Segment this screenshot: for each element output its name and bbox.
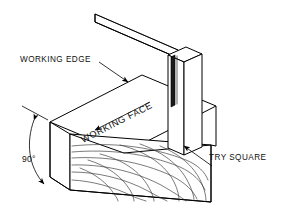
try-square-blade-bottom-edge [95, 22, 178, 58]
label-working-edge: WORKING EDGE [20, 55, 91, 64]
timber-right-end-edge [211, 106, 216, 146]
try-square-stock-front-face [168, 55, 184, 155]
label-try-square: TRY SQUARE [209, 153, 267, 162]
angle-ref-line-upper [22, 106, 48, 120]
try-square-stock-side-face [184, 54, 202, 155]
try-square-stock [168, 47, 202, 155]
try-square-blade-slot [171, 55, 175, 107]
diagram-canvas: WORKING EDGE TRY SQUARE 90° WORKING FACE [0, 0, 284, 221]
angle-arc-90-degrees [22, 106, 48, 184]
leader-line-working-edge [99, 62, 128, 82]
timber-left-end-face [50, 122, 70, 190]
try-square-blade [95, 14, 178, 58]
technical-illustration: WORKING EDGE TRY SQUARE 90° WORKING FACE [0, 0, 284, 221]
label-angle-90: 90° [22, 154, 36, 164]
try-square-blade-face [95, 14, 178, 58]
try-square-blade-top-edge [95, 14, 178, 50]
